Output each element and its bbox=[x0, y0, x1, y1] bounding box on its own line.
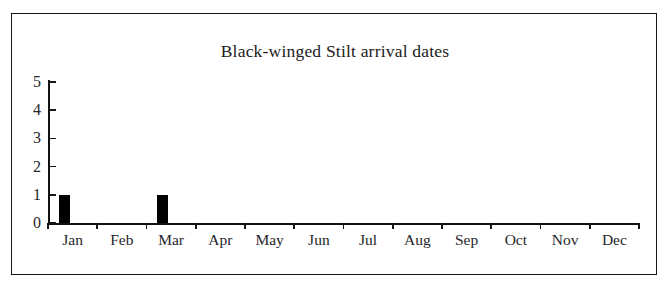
x-axis-tick bbox=[638, 223, 640, 229]
x-axis-tick-label: Apr bbox=[208, 232, 232, 248]
x-axis-tick bbox=[293, 223, 295, 229]
y-axis-tick-label: 2 bbox=[33, 159, 41, 175]
y-axis-tick bbox=[50, 194, 56, 196]
x-axis-tick bbox=[589, 223, 591, 229]
x-axis-tick bbox=[96, 223, 98, 229]
x-axis-tick-label: Jul bbox=[359, 232, 377, 248]
x-axis-tick bbox=[195, 223, 197, 229]
plot-area: 012345JanFebMarAprMayJunJulAugSepOctNovD… bbox=[48, 82, 639, 223]
x-axis-tick-label: Jan bbox=[62, 232, 83, 248]
bar bbox=[157, 195, 168, 223]
x-axis-tick-label: Mar bbox=[158, 232, 184, 248]
bar bbox=[59, 195, 70, 223]
x-axis-tick bbox=[244, 223, 246, 229]
x-axis-tick-label: Sep bbox=[455, 232, 478, 248]
x-axis-tick-label: Oct bbox=[505, 232, 527, 248]
plot-inner bbox=[48, 82, 639, 223]
x-axis-tick-label: Dec bbox=[602, 232, 627, 248]
y-axis-tick bbox=[50, 81, 56, 83]
x-axis-tick bbox=[343, 223, 345, 229]
y-axis-tick bbox=[50, 138, 56, 140]
x-axis-tick bbox=[47, 223, 49, 229]
x-axis-tick bbox=[540, 223, 542, 229]
figure-canvas: Black-winged Stilt arrival dates 012345J… bbox=[0, 0, 669, 287]
x-axis-tick-label: Aug bbox=[404, 232, 431, 248]
y-axis-tick-label: 3 bbox=[33, 130, 41, 146]
y-axis-tick-label: 1 bbox=[33, 187, 41, 203]
x-axis-tick-label: Nov bbox=[552, 232, 579, 248]
chart-title: Black-winged Stilt arrival dates bbox=[12, 41, 658, 62]
y-axis-tick bbox=[50, 109, 56, 111]
chart-frame: Black-winged Stilt arrival dates 012345J… bbox=[11, 13, 657, 275]
y-axis-tick-label: 4 bbox=[33, 102, 41, 118]
x-axis-tick bbox=[441, 223, 443, 229]
x-axis-tick-label: May bbox=[255, 232, 283, 248]
x-axis-tick-label: Feb bbox=[110, 232, 133, 248]
x-axis-tick-label: Jun bbox=[308, 232, 330, 248]
x-axis-tick bbox=[392, 223, 394, 229]
x-axis-tick bbox=[490, 223, 492, 229]
x-axis-tick bbox=[146, 223, 148, 229]
y-axis-tick bbox=[50, 166, 56, 168]
y-axis-tick bbox=[50, 222, 56, 224]
y-axis-tick-label: 0 bbox=[33, 215, 41, 231]
y-axis-tick-label: 5 bbox=[33, 74, 41, 90]
